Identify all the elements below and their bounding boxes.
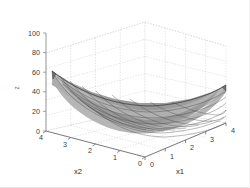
- x1-tick-label-0: 0: [150, 160, 154, 169]
- x2-axis-title: x2: [74, 167, 82, 176]
- x2-tick-label-2: 2: [88, 146, 92, 155]
- x1-axis-title: x1: [176, 167, 184, 176]
- x2-tick-label-3: 3: [63, 140, 67, 149]
- z-axis-ticks: 100 80 60 40 20 0: [28, 29, 46, 136]
- x1-tick-label-3: 3: [210, 135, 214, 144]
- x1-tick-label-4: 4: [231, 126, 235, 135]
- z-tick-label-100: 100: [28, 29, 40, 38]
- surface-plot-3d: 100 80 60 40 20 0 z 4 3 2 1 0 x2: [0, 0, 250, 188]
- x1-tick-label-1: 1: [170, 152, 174, 161]
- z-tick-label-20: 20: [32, 107, 40, 116]
- z-tick-label-80: 80: [32, 48, 40, 57]
- x2-tick-label-4: 4: [39, 133, 43, 142]
- z-axis-title: z: [13, 86, 20, 89]
- z-tick-label-60: 60: [32, 68, 40, 77]
- z-tick-label-40: 40: [32, 87, 40, 96]
- x1-tick-label-2: 2: [190, 143, 194, 152]
- x2-tick-label-1: 1: [113, 153, 117, 162]
- figure-container: 100 80 60 40 20 0 z 4 3 2 1 0 x2: [0, 0, 250, 188]
- x2-tick-label-0: 0: [138, 159, 142, 168]
